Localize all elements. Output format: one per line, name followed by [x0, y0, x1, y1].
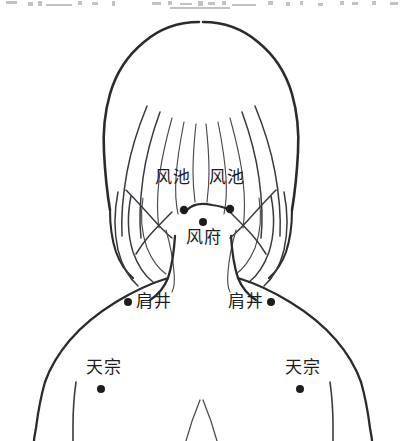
- scapula-line-right: [330, 382, 333, 441]
- acupoint-dot-fengchi-right[interactable]: [226, 205, 234, 213]
- acupoint-label-tianzong-left: 天宗: [86, 358, 121, 377]
- acupoint-dot-jianjing-left[interactable]: [124, 298, 132, 306]
- acupoint-dot-fengfu[interactable]: [199, 218, 207, 226]
- acupoint-dot-tianzong-right[interactable]: [296, 385, 304, 393]
- acupoint-label-fengfu: 风府: [186, 228, 221, 247]
- nape-hairline: [187, 204, 229, 210]
- spine-line-left: [186, 400, 200, 441]
- acupoint-label-fengchi-right: 风池: [209, 168, 244, 187]
- hair-flick-left: [126, 190, 172, 238]
- scapula-line-left: [73, 382, 76, 441]
- hair-strand-right-1: [255, 106, 280, 236]
- hair-strand-right-5: [206, 124, 209, 202]
- acupoint-label-fengchi-left: 风池: [155, 168, 190, 187]
- hair-lock-right-inner: [236, 198, 260, 274]
- hair-strand-left-5: [193, 124, 196, 202]
- acupoint-figure: 风池 风池 风府 肩井 肩井 天宗 天宗: [0, 0, 405, 441]
- acupoint-dot-jianjing-right[interactable]: [267, 298, 275, 306]
- acupoint-dot-fengchi-left[interactable]: [180, 206, 188, 214]
- torso-side-right: [361, 382, 372, 441]
- acupoint-label-jianjing-right: 肩井: [228, 292, 263, 311]
- torso-side-left: [34, 382, 45, 441]
- acupoint-dot-tianzong-left[interactable]: [97, 385, 105, 393]
- hair-lock-right-outer: [264, 192, 287, 286]
- hair-strand-right-2: [242, 112, 262, 238]
- spine-line-right: [203, 400, 217, 441]
- hair-strand-left-1: [122, 106, 147, 236]
- hair-lock-left-outer: [115, 192, 138, 286]
- anatomy-drawing: [0, 0, 405, 441]
- acupoint-label-jianjing-left: 肩井: [136, 292, 171, 311]
- hair-lock-left-inner: [142, 198, 166, 274]
- hair-flick-right: [230, 190, 276, 238]
- acupoint-label-tianzong-right: 天宗: [285, 358, 320, 377]
